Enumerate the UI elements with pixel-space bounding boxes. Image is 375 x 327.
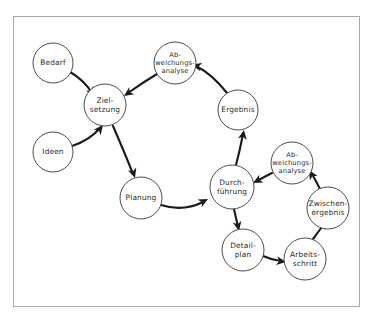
edge-line: [72, 128, 100, 146]
edge-line: [257, 173, 272, 181]
edge-line: [161, 202, 203, 208]
diagram-canvas: BedarfIdeenZiel-setzungAb-weichungs-anal…: [0, 0, 375, 327]
edge-line: [128, 74, 157, 93]
node-planung[interactable]: Planung: [120, 177, 162, 219]
node-label: Arbeits-schritt: [290, 250, 320, 268]
node-label: Bedarf: [40, 58, 66, 67]
edge-ergebnis-to-abweichungsanalyse1: [191, 61, 227, 93]
edge-detailplan-to-arbeitsschritt: [263, 256, 287, 266]
nodes-layer: BedarfIdeenZiel-setzungAb-weichungs-anal…: [33, 42, 349, 280]
node-abweichungsanalyse1[interactable]: Ab-weichungs-analyse: [154, 42, 196, 84]
node-label: Planung: [126, 193, 157, 202]
diagram-graphic: BedarfIdeenZiel-setzungAb-weichungs-anal…: [0, 0, 375, 327]
edge-line: [113, 126, 133, 174]
node-label: Zwischen-ergebnis: [308, 199, 347, 217]
node-ideen[interactable]: Ideen: [33, 132, 73, 172]
node-label: Durch-führung: [217, 178, 247, 196]
node-detailplan[interactable]: Detail-plan: [222, 229, 264, 271]
edge-durchfuehrung-to-ergebnis: [236, 129, 248, 165]
node-zwischenergebnis[interactable]: Zwischen-ergebnis: [307, 187, 349, 229]
node-label: Ideen: [42, 147, 64, 156]
edge-line: [236, 134, 243, 165]
edge-line: [70, 72, 92, 93]
edge-durchfuehrung-to-detailplan: [233, 209, 244, 232]
edge-line: [196, 66, 227, 93]
node-label: Ergebnis: [221, 105, 254, 114]
node-durchfuehrung[interactable]: Durch-führung: [210, 165, 254, 209]
node-ergebnis[interactable]: Ergebnis: [218, 90, 258, 130]
edge-abweichungsanalyse1-to-zielsetzung: [121, 74, 157, 100]
node-abweichungsanalyse2[interactable]: Ab-weichungs-analyse: [271, 142, 313, 184]
node-arbeitsschritt[interactable]: Arbeits-schritt: [284, 238, 326, 280]
node-bedarf[interactable]: Bedarf: [33, 43, 73, 83]
node-zielsetzung[interactable]: Ziel-setzung: [84, 84, 126, 126]
edge-zielsetzung-to-planung: [113, 126, 139, 179]
arrow-head-icon: [198, 195, 211, 207]
edge-planung-to-durchfuehrung: [161, 195, 210, 208]
edge-line: [312, 174, 320, 189]
